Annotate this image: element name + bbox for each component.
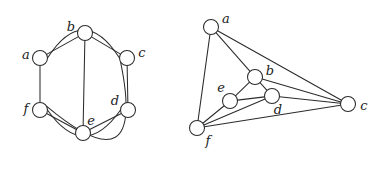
nodes-layer [33,20,356,141]
edge-right-graph-a-f [198,34,210,120]
node-label-right-graph-d: d [274,102,282,117]
node-right-graph-a [204,20,219,35]
node-label-right-graph-f: f [205,133,213,148]
node-label-left-graph-a: a [22,47,30,62]
node-label-left-graph-c: c [138,45,146,60]
edge-left-graph-c-d [127,65,128,102]
node-label-left-graph-f: f [23,101,31,116]
node-label-right-graph-c: c [360,98,368,113]
node-label-left-graph-d: d [111,93,119,108]
edge-right-graph-a-c [218,31,342,101]
edge-right-graph-b-e [235,82,249,96]
node-right-graph-e [223,94,238,109]
node-label-left-graph-e: e [87,113,95,128]
graph-figure: abcdefabcdef [0,0,379,171]
edge-left-graph-b-c [91,37,120,54]
edge-left-graph-f-e [47,114,77,130]
node-left-graph-e [76,126,91,141]
node-label-right-graph-b: b [266,63,274,78]
node-left-graph-c [120,51,135,66]
node-right-graph-b [248,70,263,85]
node-left-graph-f [33,103,48,118]
node-label-right-graph-a: a [222,11,230,26]
node-left-graph-a [33,51,48,66]
edge-right-graph-d-c [279,97,340,103]
node-right-graph-c [341,97,356,112]
edge-right-graph-a-b [216,33,250,72]
node-label-right-graph-e: e [217,80,225,95]
edge-right-graph-b-d [260,83,267,91]
edge-right-graph-e-d [237,97,264,100]
node-right-graph-f [190,121,205,136]
node-left-graph-d [121,103,136,118]
graph-canvas: abcdefabcdef [0,0,379,171]
node-label-left-graph-b: b [67,19,75,34]
node-left-graph-b [78,26,93,41]
edge-left-graph-b-e [83,40,85,125]
